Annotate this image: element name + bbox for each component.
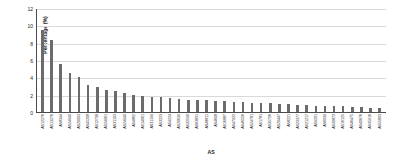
x-tick-slot: AS40676: [357, 114, 366, 148]
x-tick-slot: AS35916: [366, 114, 375, 148]
y-tick-label: 2: [3, 93, 33, 99]
x-tick-slot: AS8344: [56, 114, 65, 148]
x-tick-slot: AS24940: [120, 114, 129, 148]
x-tick-label: AS63831: [194, 114, 201, 146]
bar: [96, 87, 99, 112]
y-tick-label: 10: [3, 23, 33, 29]
y-tick-label: 12: [3, 6, 33, 12]
bar-slot: [193, 9, 202, 112]
bar-slot: [357, 9, 366, 112]
bar-slot: [211, 9, 220, 112]
bar-slot: [293, 9, 302, 112]
x-tick-label: AS8344: [57, 114, 64, 146]
x-tick-label: AS6939: [321, 114, 328, 146]
x-tick-label: AS35726: [267, 114, 274, 146]
x-tick-slot: AS13276: [47, 114, 56, 148]
bar-slot: [147, 9, 156, 112]
x-tick-slot: AS20639: [175, 114, 184, 148]
x-tick-label: AS32590: [185, 114, 192, 146]
bar: [315, 106, 318, 112]
x-tick-slot: AS30873: [330, 114, 339, 148]
x-tick-label: AS20447: [276, 114, 283, 146]
x-tick-slot: AS12276: [38, 114, 47, 148]
bar: [223, 101, 226, 112]
x-tick-label: AS46556: [239, 114, 246, 146]
bar: [269, 103, 272, 112]
bar-slot: [38, 9, 47, 112]
x-tick-slot: AS46556: [238, 114, 247, 148]
x-tick-label: AS12738: [94, 114, 101, 146]
x-tick-slot: AS9201: [311, 114, 320, 148]
bar-slot: [275, 9, 284, 112]
x-tick-slot: AS32590: [184, 114, 193, 148]
x-tick-label: AS4224: [167, 114, 174, 146]
x-tick-slot: AS12738: [93, 114, 102, 148]
bar-slot: [129, 9, 138, 112]
x-tick-slot: AS4608: [211, 114, 220, 148]
bar: [141, 96, 144, 112]
x-tick-label: AS13276: [48, 114, 55, 146]
bar-slot: [220, 9, 229, 112]
x-tick-label: AS12276: [39, 114, 46, 146]
bar: [351, 107, 354, 112]
bar: [251, 103, 254, 112]
x-tick-slot: AS48811: [202, 114, 211, 148]
x-tick-label: AS48811: [203, 114, 210, 146]
bar-slot: [166, 9, 175, 112]
bar: [160, 97, 163, 112]
bar: [305, 105, 308, 112]
bar-slot: [348, 9, 357, 112]
bar: [260, 103, 263, 112]
bar-slot: [311, 9, 320, 112]
x-tick-slot: AS46475: [348, 114, 357, 148]
bar-slot: [257, 9, 266, 112]
bar-slot: [229, 9, 238, 112]
x-tick-label: AS46475: [349, 114, 356, 146]
bar: [41, 30, 44, 112]
x-tick-slot: AS4862: [129, 114, 138, 148]
bar: [50, 40, 53, 112]
bar-chart-figure: Percentage (%) 024681012 AS12276AS13276A…: [0, 0, 402, 161]
bar: [78, 77, 81, 112]
bar: [333, 106, 336, 112]
bar-slot: [366, 9, 375, 112]
bar-slot: [74, 9, 83, 112]
bar-slot: [339, 9, 348, 112]
x-tick-slot: AS8221: [284, 114, 293, 148]
x-tick-label: AS4608: [212, 114, 219, 146]
x-tick-label: AS14061: [139, 114, 146, 146]
bar: [296, 105, 299, 112]
x-tick-label: AS55803: [376, 114, 383, 146]
x-tick-slot: AS20447: [275, 114, 284, 148]
x-tick-label: AS20003: [75, 114, 82, 146]
bar-slot: [84, 9, 93, 112]
bar-slot: [202, 9, 211, 112]
bar-slot: [302, 9, 311, 112]
bar: [278, 104, 281, 112]
x-tick-slot: AS16887: [220, 114, 229, 148]
y-axis-tick-labels: 024681012: [0, 9, 33, 113]
x-tick-label: AS40676: [358, 114, 365, 146]
bar-slot: [284, 9, 293, 112]
x-tick-slot: AS24781: [248, 114, 257, 148]
x-tick-slot: AS63831: [193, 114, 202, 148]
bar: [123, 93, 126, 112]
x-tick-slot: AS35726: [266, 114, 275, 148]
bar: [242, 102, 245, 112]
bar: [342, 106, 345, 112]
bar-slot: [320, 9, 329, 112]
bar-slot: [375, 9, 384, 112]
x-tick-slot: AS21217: [302, 114, 311, 148]
x-axis-line: [36, 112, 386, 113]
x-tick-slot: AS1781: [257, 114, 266, 148]
x-tick-slot: AS47922: [229, 114, 238, 148]
bar: [378, 108, 381, 112]
x-tick-label: AS1781: [258, 114, 265, 146]
bar: [214, 101, 217, 112]
bar: [132, 95, 135, 112]
bar-slot: [47, 9, 56, 112]
bar: [151, 97, 154, 112]
bar: [59, 64, 62, 112]
x-tick-label: AS31103: [112, 114, 119, 146]
x-tick-slot: AS3223: [156, 114, 165, 148]
